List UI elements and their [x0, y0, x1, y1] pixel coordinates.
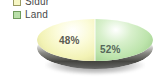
legend-swatch-icon-sidur [13, 0, 21, 6]
pie-chart-screenshot: Sidur Land 48% 52% [0, 0, 160, 84]
pie-chart: 48% 52% [37, 19, 153, 75]
pie-top-face [37, 19, 153, 61]
legend-item-land[interactable]: Land [13, 9, 49, 21]
pie-value-label-sidur: 48% [59, 35, 80, 46]
legend-label-land: Land [25, 10, 48, 20]
legend-label-sidur: Sidur [25, 0, 49, 7]
chart-legend: Sidur Land [13, 0, 49, 22]
pie-value-label-land: 52% [100, 44, 121, 55]
legend-swatch-icon-land [13, 11, 21, 19]
pie-slice-divider [95, 19, 96, 61]
legend-item-sidur[interactable]: Sidur [13, 0, 49, 8]
